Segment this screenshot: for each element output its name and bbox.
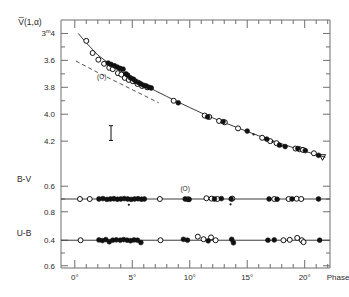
y-tick-label-3.4: 3m4 xyxy=(42,28,56,38)
x-tick-label-20: 20° xyxy=(299,273,311,282)
data-point xyxy=(301,240,306,245)
data-point xyxy=(229,197,234,202)
data-point xyxy=(316,197,321,202)
error-bar-v xyxy=(109,126,113,141)
data-point xyxy=(87,197,92,202)
y-tick-label-0.4: 0.4 xyxy=(44,236,56,245)
data-point xyxy=(157,197,162,202)
data-point xyxy=(295,146,300,151)
data-point xyxy=(311,151,316,156)
data-point xyxy=(142,197,147,202)
series-filled-circles xyxy=(106,61,321,158)
data-point xyxy=(271,141,273,143)
data-point xyxy=(231,240,236,245)
data-point xyxy=(123,73,125,75)
y-tick-label-0.6: 0.6 xyxy=(44,182,56,191)
data-point xyxy=(206,238,211,243)
y-tick-label-0.8: 0.8 xyxy=(44,208,56,217)
data-point xyxy=(185,238,190,243)
y-tick-label-0.6: 0.6 xyxy=(44,262,56,271)
data-point xyxy=(267,197,272,202)
x-tick-label-0: 0° xyxy=(71,273,79,282)
data-point xyxy=(187,197,192,202)
data-point xyxy=(275,197,280,202)
data-point xyxy=(252,133,254,135)
data-point xyxy=(121,67,126,72)
data-point xyxy=(158,238,163,243)
y-axis-label-v: V̅(1,α) xyxy=(18,17,42,27)
x-tick-label-5: 5° xyxy=(128,273,136,282)
y-tick-label-4.2: 4.2 xyxy=(44,137,56,146)
panel-B-V xyxy=(61,196,330,206)
x-axis-label: Phase xyxy=(327,273,349,282)
data-point xyxy=(84,38,89,43)
y-tick-label-4: 4.0 xyxy=(44,110,56,119)
y-axis-ub xyxy=(61,240,330,266)
data-point xyxy=(281,145,283,147)
data-point xyxy=(260,135,265,140)
y-axis-label-bv: B-V xyxy=(17,174,32,184)
data-point xyxy=(283,144,288,149)
data-point xyxy=(77,197,82,202)
x-tick-label-10: 10° xyxy=(184,273,196,282)
panel-V(1,alpha) xyxy=(76,33,326,160)
opposition-label-bv: (O) xyxy=(180,185,189,193)
data-point xyxy=(281,238,286,243)
opposition-label-v: (O) xyxy=(97,73,106,81)
series-open-circles xyxy=(84,38,317,155)
data-point xyxy=(212,197,217,202)
y-tick-label-3.8: 3.8 xyxy=(44,83,56,92)
series-outlier-dots xyxy=(128,203,232,206)
x-axis-ticks xyxy=(75,20,328,268)
data-point xyxy=(287,237,292,242)
data-point xyxy=(299,197,304,202)
data-point xyxy=(290,197,295,202)
phase-curve-plot: 0°5°10°15°20°Phase3m43.63.84.04.20.60.80… xyxy=(0,0,349,297)
data-point xyxy=(171,98,176,103)
data-point xyxy=(96,57,101,62)
data-point xyxy=(229,203,231,205)
data-point xyxy=(128,204,130,206)
x-tick-label-15: 15° xyxy=(241,273,253,282)
y-axis-label-ub: U-B xyxy=(17,228,32,238)
data-point xyxy=(195,234,200,239)
data-point xyxy=(317,238,322,243)
data-point xyxy=(149,86,154,91)
data-point xyxy=(266,238,271,243)
panel-U-B xyxy=(61,234,330,245)
data-point xyxy=(264,137,269,142)
data-point xyxy=(144,84,146,86)
data-point xyxy=(221,119,226,124)
data-point xyxy=(272,238,277,243)
data-point xyxy=(138,81,140,83)
figure-root: 0°5°10°15°20°Phase3m43.63.84.04.20.60.80… xyxy=(0,0,349,297)
y-axis-v: 3m4 xyxy=(42,28,331,141)
solid-phase-curve xyxy=(78,33,325,157)
data-point xyxy=(90,50,95,55)
data-point xyxy=(176,100,181,105)
data-point xyxy=(205,115,210,120)
data-point xyxy=(236,126,241,131)
data-point xyxy=(213,238,218,243)
data-point xyxy=(78,238,83,243)
data-point xyxy=(219,196,224,201)
data-point xyxy=(138,240,143,245)
data-point xyxy=(204,196,209,201)
data-point xyxy=(201,237,206,242)
data-point xyxy=(245,129,250,134)
data-point xyxy=(303,148,308,153)
y-tick-label-3.6: 3.6 xyxy=(44,56,56,65)
